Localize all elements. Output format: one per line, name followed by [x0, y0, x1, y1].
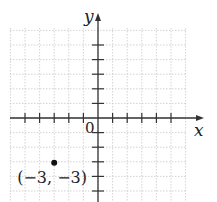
data-points: (−3, −3) — [17, 160, 87, 187]
y-axis-arrow-icon — [95, 13, 101, 21]
data-point — [51, 160, 57, 166]
y-axis-label: y — [83, 6, 94, 26]
coordinate-plane: x y 0 (−3, −3) — [0, 0, 217, 202]
x-axis-label: x — [194, 120, 204, 140]
origin-label: 0 — [85, 119, 95, 137]
point-label: (−3, −3) — [17, 168, 87, 187]
